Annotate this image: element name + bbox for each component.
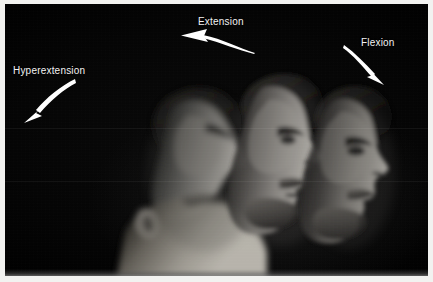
anatomy-motion-figure: Extension Flexion Hyperextension — [0, 0, 433, 282]
label-extension: Extension — [198, 16, 244, 28]
label-hyperextension: Hyperextension — [13, 65, 85, 77]
photograph: Extension Flexion Hyperextension — [5, 4, 428, 276]
label-flexion: Flexion — [361, 37, 395, 49]
